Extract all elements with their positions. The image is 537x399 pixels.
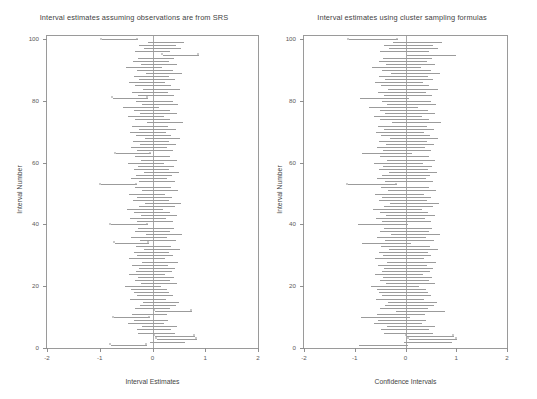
- interval-segment: [379, 200, 428, 201]
- interval-segment: [135, 119, 171, 120]
- interval-segment: [144, 48, 181, 49]
- interval-segment: [385, 240, 434, 241]
- interval-segment: [132, 265, 168, 266]
- interval-segment: [389, 172, 438, 173]
- interval-segment: [138, 166, 174, 167]
- x-axis-tick-label: -2: [37, 354, 57, 361]
- interval-segment: [396, 311, 445, 312]
- x-axis-tick: [406, 348, 407, 352]
- interval-segment: [155, 336, 195, 337]
- interval-segment: [390, 203, 439, 204]
- x-axis-tick-label: 2: [248, 354, 268, 361]
- interval-segment: [385, 113, 435, 114]
- interval-segment: [131, 147, 167, 148]
- interval-segment: [381, 187, 430, 188]
- y-axis-tick-label: 0: [274, 344, 296, 351]
- interval-segment: [134, 110, 170, 111]
- interval-segment: [142, 190, 178, 191]
- interval-segment: [133, 200, 169, 201]
- interval-segment: [379, 61, 428, 62]
- interval-segment: [383, 58, 432, 59]
- interval-segment: [137, 70, 173, 71]
- interval-endpoint-marker: [155, 337, 157, 339]
- interval-segment: [380, 308, 428, 309]
- y-axis-tick: [300, 224, 304, 225]
- interval-segment: [407, 55, 457, 56]
- y-axis-tick-label: 80: [274, 97, 296, 104]
- interval-segment: [111, 345, 147, 346]
- interval-segment: [139, 129, 176, 130]
- interval-segment: [381, 135, 430, 136]
- interval-segment: [123, 107, 159, 108]
- interval-segment: [111, 224, 148, 225]
- x-axis-tick-label: -1: [345, 354, 365, 361]
- interval-segment: [136, 101, 173, 102]
- y-axis-tick-label: 100: [17, 35, 39, 42]
- interval-segment: [139, 206, 175, 207]
- interval-segment: [407, 336, 455, 337]
- interval-segment: [393, 42, 442, 43]
- panel-cluster-yaxis-title: Interval Number: [276, 155, 283, 225]
- interval-segment: [137, 255, 173, 256]
- interval-endpoint-marker: [112, 316, 114, 318]
- y-axis-tick-label: 20: [274, 282, 296, 289]
- interval-segment: [383, 255, 432, 256]
- interval-segment: [135, 85, 171, 86]
- interval-segment: [127, 209, 163, 210]
- interval-endpoint-marker: [193, 334, 195, 336]
- interval-segment: [129, 258, 165, 259]
- x-axis-tick: [205, 348, 206, 352]
- interval-segment: [382, 295, 431, 296]
- interval-segment: [138, 277, 174, 278]
- x-axis-tick-label: 2: [497, 354, 517, 361]
- interval-endpoint-marker: [405, 334, 407, 336]
- interval-segment: [126, 67, 162, 68]
- interval-segment: [372, 67, 421, 68]
- interval-segment: [115, 243, 150, 244]
- interval-segment: [384, 95, 433, 96]
- interval-segment: [374, 116, 423, 117]
- interval-segment: [129, 82, 165, 83]
- y-axis-tick: [300, 163, 304, 164]
- interval-segment: [379, 76, 428, 77]
- interval-segment: [379, 292, 428, 293]
- panel-srs: Interval estimates assuming observations…: [0, 0, 268, 399]
- interval-segment: [380, 119, 429, 120]
- interval-segment: [141, 283, 177, 284]
- interval-segment: [375, 274, 424, 275]
- interval-segment: [140, 305, 176, 306]
- interval-segment: [360, 98, 409, 99]
- panel-cluster-plot-area: [304, 36, 507, 348]
- interval-segment: [139, 45, 176, 46]
- interval-segment: [389, 249, 438, 250]
- interval-segment: [380, 51, 429, 52]
- interval-segment: [146, 234, 182, 235]
- interval-segment: [384, 333, 433, 334]
- interval-segment: [358, 224, 408, 225]
- interval-segment: [128, 163, 164, 164]
- interval-segment: [136, 246, 172, 247]
- interval-segment: [135, 231, 171, 232]
- interval-segment: [409, 339, 458, 340]
- interval-segment: [139, 79, 175, 80]
- x-axis-tick: [100, 348, 101, 352]
- interval-segment: [134, 320, 169, 321]
- interval-segment: [147, 122, 183, 123]
- panel-srs-title: Interval estimates assuming observations…: [0, 13, 268, 22]
- interval-segment: [134, 169, 170, 170]
- interval-segment: [128, 323, 164, 324]
- interval-segment: [142, 326, 177, 327]
- y-axis-tick: [300, 39, 304, 40]
- interval-segment: [139, 181, 175, 182]
- interval-endpoint-marker: [407, 337, 409, 339]
- interval-segment: [380, 280, 429, 281]
- interval-segment: [382, 271, 431, 272]
- interval-segment: [381, 329, 429, 330]
- interval-endpoint-marker: [136, 38, 138, 40]
- interval-segment: [137, 197, 172, 198]
- interval-segment: [348, 184, 398, 185]
- y-axis-tick: [43, 101, 47, 102]
- y-axis-tick-label: 80: [17, 97, 39, 104]
- interval-segment: [113, 98, 148, 99]
- interval-segment: [378, 320, 426, 321]
